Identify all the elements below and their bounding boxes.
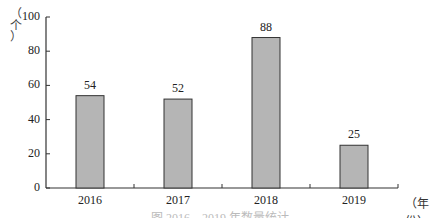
y-tick-label: 0 (10, 180, 40, 195)
bar-2016 (76, 96, 104, 188)
bar-value-label: 54 (70, 78, 110, 93)
figure-caption: 图 2016—2019 年数量统计 (60, 211, 380, 218)
x-axis-unit-label: （年份） (405, 194, 441, 218)
bar-value-label: 52 (158, 81, 198, 96)
y-tick-label: 100 (10, 9, 40, 24)
y-tick-label: 60 (10, 77, 40, 92)
bar-2018 (252, 38, 280, 188)
x-tick-label: 2017 (153, 193, 203, 208)
bar-2017 (164, 99, 192, 188)
y-label-close-paren: ） (9, 33, 23, 42)
x-tick-label: 2018 (241, 193, 291, 208)
x-tick-label: 2019 (329, 193, 379, 208)
bar-value-label: 25 (334, 127, 374, 142)
x-tick-label: 2016 (65, 193, 115, 208)
bar-value-label: 88 (246, 20, 286, 35)
bar-chart (0, 0, 441, 218)
y-tick-label: 20 (10, 146, 40, 161)
bars (76, 38, 368, 188)
bar-2019 (340, 145, 368, 188)
y-tick-label: 40 (10, 112, 40, 127)
y-tick-label: 80 (10, 43, 40, 58)
